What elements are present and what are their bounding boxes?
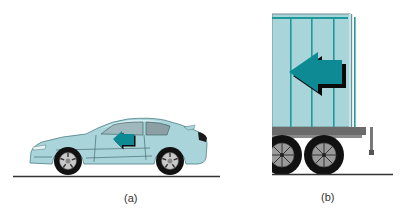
trailer-wheel-right <box>304 135 344 175</box>
panel-b-label: (b) <box>321 191 334 203</box>
car-rear-wheel <box>156 147 184 175</box>
undercarriage <box>272 127 366 135</box>
panel-b-truck <box>250 0 393 180</box>
panel-a-label: (a) <box>124 192 137 204</box>
figure-canvas <box>0 0 404 217</box>
support-leg <box>370 127 373 153</box>
panel-a-car <box>13 118 220 176</box>
car-front-wheel <box>54 147 82 175</box>
